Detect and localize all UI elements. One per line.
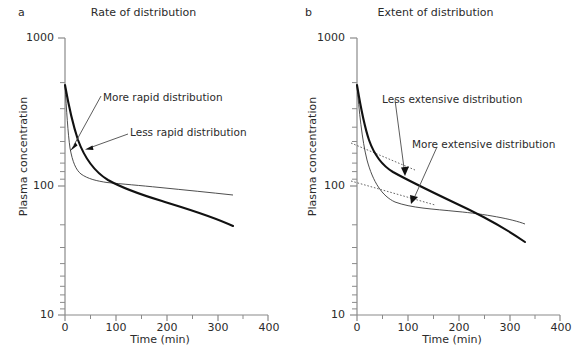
pharmacokinetics-figure: a Rate of distribution Plasma concentrat…: [0, 0, 574, 354]
panel-a-leader-less-rapid: [92, 134, 128, 147]
panel-a-x-major-ticks: [65, 315, 268, 321]
panel-a-curve-more-rapid: [65, 85, 233, 195]
panel-b-leader-less-extensive: [395, 100, 404, 168]
panel-a: a Rate of distribution Plasma concentrat…: [0, 0, 287, 354]
panel-a-plot: [0, 0, 287, 354]
panel-b-arrowhead-less-extensive: [401, 167, 409, 177]
panel-b-y-minor-ticks: [352, 83, 357, 309]
panel-b-y-major-ticks: [350, 38, 357, 315]
panel-b-curve-more-extensive: [357, 85, 525, 224]
panel-a-arrowhead-more-rapid: [70, 143, 78, 152]
panel-b-dotted-extrapolation-upper: [351, 143, 415, 170]
panel-a-y-minor-ticks: [60, 83, 65, 309]
panel-b: b Extent of distribution Plasma concentr…: [287, 0, 574, 354]
panel-b-plot: [287, 0, 574, 354]
panel-a-y-major-ticks: [58, 38, 65, 315]
panel-a-arrowhead-less-rapid: [85, 146, 94, 151]
panel-a-leader-more-rapid: [74, 96, 101, 145]
panel-b-curve-less-extensive: [357, 85, 525, 242]
panel-a-curve-less-rapid: [65, 85, 233, 226]
panel-b-x-major-ticks: [357, 315, 560, 321]
